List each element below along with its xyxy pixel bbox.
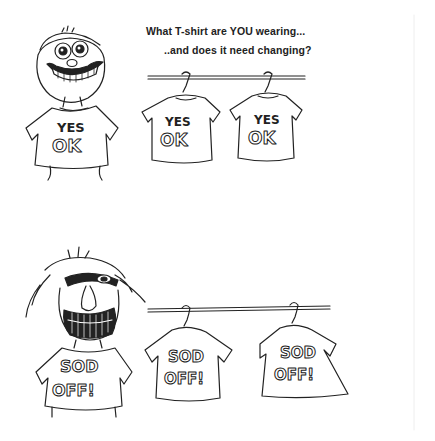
shirt-text-ok: OK bbox=[52, 135, 82, 156]
shirt-text-off: OFF! bbox=[164, 370, 204, 388]
shirt-text-sod: SOD bbox=[280, 344, 316, 362]
shirt-text-off: OFF! bbox=[274, 366, 314, 384]
hanging-shirt-yes-ok-2 bbox=[230, 93, 302, 161]
shirt-text-ok: OK bbox=[160, 130, 188, 150]
shirt-text-sod: SOD bbox=[60, 357, 98, 376]
clothes-rail-bottom bbox=[148, 303, 330, 327]
hanging-shirt-yes-ok-1 bbox=[142, 95, 220, 163]
clothes-rail-top bbox=[148, 72, 305, 92]
shirt-text-ok: OK bbox=[248, 128, 276, 148]
grinning-man-illustration bbox=[26, 26, 118, 180]
shirt-text-sod: SOD bbox=[168, 348, 204, 366]
shirt-text-yes: YES bbox=[253, 113, 280, 127]
shirt-text-off: OFF! bbox=[52, 381, 95, 400]
shirt-text-yes: YES bbox=[56, 120, 85, 135]
shirt-text-yes: YES bbox=[164, 115, 191, 129]
